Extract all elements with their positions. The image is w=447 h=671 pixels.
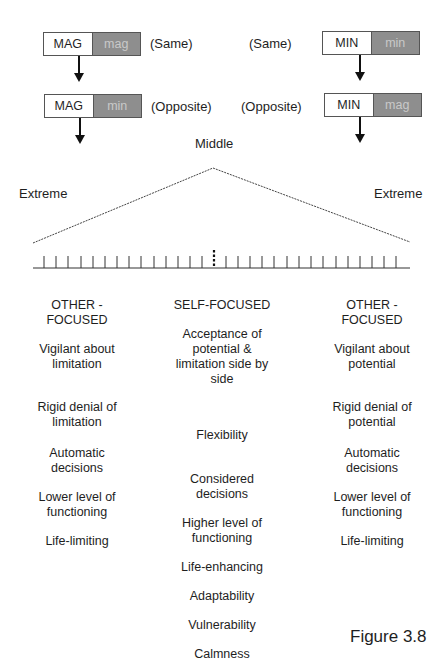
list-item: Rigid denial of limitation	[22, 400, 132, 430]
column-heading: SELF-FOCUSED	[163, 298, 281, 313]
list-item: Life-limiting	[317, 534, 427, 549]
list-item: Vigilant about potential	[317, 342, 427, 372]
list-item: Adaptability	[163, 589, 281, 604]
spectrum-scale	[0, 0, 447, 300]
list-item: Calmness	[163, 647, 281, 662]
list-item: Considered decisions	[163, 472, 281, 502]
right-slope-line	[213, 168, 410, 242]
ticks-right	[226, 256, 396, 268]
list-item: Acceptance of potential & limitation sid…	[163, 327, 281, 387]
list-item: Higher level of functioning	[163, 516, 281, 546]
ticks-left	[44, 256, 202, 268]
figure-caption: Figure 3.8	[350, 627, 427, 647]
list-item: Flexibility	[163, 428, 281, 443]
list-item: Rigid denial of potential	[317, 400, 427, 430]
list-item: Automatic decisions	[22, 446, 132, 476]
list-item: Life-limiting	[22, 534, 132, 549]
list-item: Vulnerability	[163, 618, 281, 633]
left-slope-line	[33, 168, 213, 243]
list-item: Life-enhancing	[163, 560, 281, 575]
list-item: Vigilant about limitation	[22, 342, 132, 372]
list-item: Lower level of functioning	[317, 490, 427, 520]
column-heading: OTHER - FOCUSED	[22, 298, 132, 328]
list-item: Lower level of functioning	[22, 490, 132, 520]
list-item: Automatic decisions	[317, 446, 427, 476]
column-heading: OTHER - FOCUSED	[317, 298, 427, 328]
